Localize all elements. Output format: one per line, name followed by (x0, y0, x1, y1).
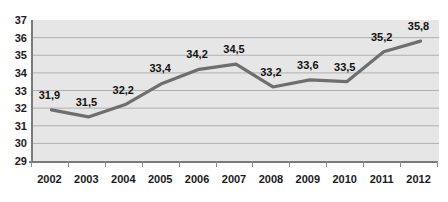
x-tick (179, 161, 180, 167)
x-axis: 2002200320042005200620072008200920102011… (31, 174, 437, 194)
x-tick-label: 2009 (296, 174, 320, 185)
x-tick-label: 2006 (185, 174, 209, 185)
x-tick (68, 161, 69, 167)
x-tick-label: 2008 (259, 174, 283, 185)
x-tick-label: 2007 (222, 174, 246, 185)
x-tick-label: 2005 (148, 174, 172, 185)
gridlines (33, 38, 439, 144)
x-tick (252, 161, 253, 167)
x-tick (437, 161, 438, 167)
y-axis: 293031323334353637 (0, 0, 30, 202)
x-tick (216, 161, 217, 167)
y-tick-label: 36 (15, 32, 27, 43)
x-tick (142, 161, 143, 167)
series-line (51, 41, 420, 117)
x-tick (105, 161, 106, 167)
x-tick (31, 161, 32, 167)
x-tick-label: 2002 (37, 174, 61, 185)
x-tick-label: 2012 (406, 174, 430, 185)
x-tick-label: 2011 (370, 174, 394, 185)
x-tick-label: 2004 (111, 174, 135, 185)
plot-svg (33, 20, 439, 161)
x-tick (400, 161, 401, 167)
y-tick-label: 31 (15, 120, 27, 131)
x-tick-label: 2010 (332, 174, 356, 185)
x-tick-label: 2003 (74, 174, 98, 185)
x-tick (326, 161, 327, 167)
y-tick-label: 30 (15, 138, 27, 149)
y-tick-label: 32 (15, 103, 27, 114)
plot-area (31, 20, 439, 161)
x-axis-line (29, 161, 437, 163)
x-tick (363, 161, 364, 167)
y-tick-label: 35 (15, 50, 27, 61)
y-tick-label: 29 (15, 156, 27, 167)
y-tick-label: 34 (15, 67, 27, 78)
y-tick-label: 37 (15, 15, 27, 26)
series-group (51, 41, 420, 117)
line-chart: 293031323334353637 200220032004200520062… (0, 0, 448, 202)
y-tick-label: 33 (15, 85, 27, 96)
x-tick (289, 161, 290, 167)
